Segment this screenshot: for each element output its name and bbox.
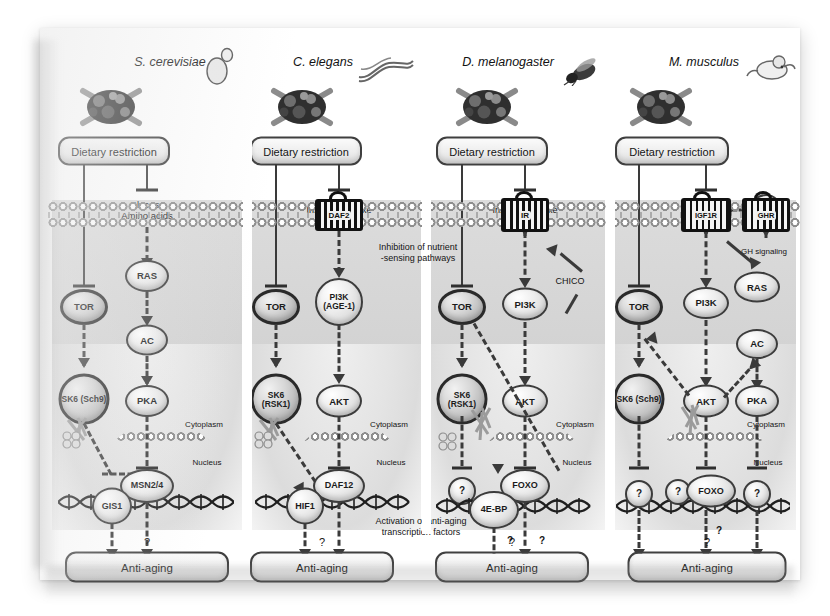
daf2-to-pi3k-dash [338, 231, 341, 273]
nuclear-pore-icon-left [437, 429, 463, 455]
ir-to-pi3k-dash [524, 232, 527, 284]
node-tor[interactable]: TOR [60, 289, 108, 325]
anti-aging-box-3[interactable]: Anti-aging [435, 552, 589, 583]
sk6-to-unknown-dash [461, 416, 464, 466]
nuclear-pore-icon [676, 403, 708, 449]
receptor-ir[interactable]: IR [501, 198, 549, 232]
node-unknown-3[interactable]: ? [743, 480, 771, 508]
dietary-restriction-box[interactable]: Dietary restriction [58, 137, 170, 166]
food-plate-icon [625, 81, 699, 131]
node-pi3k[interactable]: PI3K [683, 287, 729, 319]
dr-to-ligand-line [146, 164, 148, 190]
dietary-restriction-box[interactable]: Dietary restriction [615, 137, 729, 166]
inhibition-bar-unknown [452, 467, 472, 470]
cytoplasm-label: Cytoplasm [556, 420, 594, 430]
dr-to-ligand-line [338, 164, 340, 190]
inhibition-bar-tor [265, 285, 287, 288]
dietary-restriction-box[interactable]: Dietary restriction [250, 137, 362, 166]
cytoplasm-label: Cytoplasm [370, 420, 408, 430]
food-plate-icon [75, 81, 149, 131]
adaptor-chico-label: CHICO [556, 276, 585, 287]
tor-to-sk6-arrow [456, 358, 468, 368]
node-ras[interactable]: RAS [734, 272, 780, 303]
outcome-question-4: ? [704, 536, 710, 549]
daf2-to-pi3k-arrow [333, 268, 345, 278]
node-tor[interactable]: TOR [252, 289, 300, 325]
panel-s-cerevisiae: S. cerevisiae Dietary restriction Glucos… [52, 44, 242, 534]
inhibition-bar-tor [73, 285, 95, 288]
nucleus-label: Nucleus [377, 458, 406, 468]
mouse-icon [746, 53, 796, 85]
panel-separator-3 [606, 44, 615, 534]
figure-canvas: S. cerevisiae Dietary restriction Glucos… [0, 0, 830, 616]
inhibition-note: Inhibition of nutrient -sensing pathways [379, 242, 458, 264]
node-gis1[interactable]: GIS1 [92, 488, 132, 525]
node-tor[interactable]: TOR [615, 289, 663, 325]
daf12-output-dash [338, 503, 341, 555]
gh-signaling-label: GH signaling [741, 247, 787, 257]
pka-to-msn-dash [146, 416, 149, 466]
node-akt[interactable]: AKT [316, 385, 362, 418]
node-ac[interactable]: AC [126, 325, 168, 356]
species-label: C. elegans [293, 55, 353, 69]
activation-note: Activation of anti-aging transcription f… [375, 516, 466, 538]
node-hif1[interactable]: HIF1 [286, 488, 324, 525]
igf1r-to-pi3k-dash [705, 232, 708, 284]
tor-to-sk6-arrow [633, 358, 645, 368]
ir-to-pi3k-arrow [519, 278, 531, 288]
fruit-fly-icon [562, 54, 602, 86]
anti-aging-box-2[interactable]: Anti-aging [250, 552, 394, 583]
receptor-daf2[interactable]: DAF2 [315, 199, 363, 231]
plasma-membrane [48, 200, 246, 230]
panel-d-melanogaster: D. melanogaster Dietary restriction Insu… [430, 44, 605, 534]
anti-aging-box-1[interactable]: Anti-aging [65, 552, 229, 583]
node-foxo[interactable]: FOXO [686, 475, 736, 508]
outcome-question-1: ? [144, 536, 150, 549]
cytoplasm-label: Cytoplasm [747, 420, 785, 430]
pi3k-to-akt-dash [338, 324, 341, 380]
ligand-to-ras-dash [146, 227, 149, 261]
node-tor[interactable]: TOR [438, 289, 486, 325]
node-ras[interactable]: RAS [125, 260, 169, 292]
pi3k-to-akt-dash [524, 322, 527, 382]
sk6-to-unknown-dash [638, 416, 641, 466]
branch-question-1: ? [716, 525, 722, 537]
inhibition-bar-unknown-1 [629, 467, 649, 470]
inhibition-bar-tor [628, 285, 650, 288]
nucleus-label: Nucleus [563, 458, 592, 468]
dr-to-igf1-line [705, 164, 707, 190]
panel-m-musculus: M. musculus Dietary restriction IGF1 GH1 [614, 44, 796, 534]
pi3k-to-akt-dash [705, 320, 708, 384]
food-plate-icon [451, 81, 525, 131]
tor-to-sk6-arrow [78, 358, 90, 368]
akt-to-foxo-dash [705, 416, 708, 466]
nucleus-label: Nucleus [193, 458, 222, 468]
nematode-worm-icon [357, 57, 415, 83]
food-plate-icon [266, 81, 340, 131]
nuclear-pore-icon [464, 406, 500, 454]
cytoplasm-label: Cytoplasm [185, 420, 223, 430]
node-pi3k[interactable]: PI3K [502, 288, 548, 321]
panel-separator-2 [422, 44, 431, 534]
akt-to-foxo-dash [524, 416, 527, 466]
dietary-restriction-box[interactable]: Dietary restriction [436, 137, 548, 166]
outcome-question-2: ? [319, 536, 325, 549]
anti-aging-box-4[interactable]: Anti-aging [628, 552, 787, 583]
node-pka[interactable]: PKA [125, 385, 169, 417]
node-ac[interactable]: AC [736, 329, 778, 359]
foxo-output-dash [524, 503, 527, 555]
pka-to-unknown-dash [756, 416, 759, 466]
node-pi3k[interactable]: PI3K (AGE-1) [315, 278, 363, 326]
node-pka[interactable]: PKA [735, 385, 779, 417]
species-label: S. cerevisiae [134, 55, 206, 69]
pi3k-to-akt-arrow [333, 374, 345, 384]
inhibition-bar-unknown-3 [747, 467, 767, 470]
receptor-ghr[interactable]: GHR [742, 198, 790, 232]
species-label: D. melanogaster [462, 55, 554, 69]
receptor-igf1r[interactable]: IGF1R [681, 198, 731, 232]
node-unknown-1[interactable]: ? [625, 480, 653, 508]
inhibition-bar-ligand [136, 189, 158, 192]
tor-to-sk6-arrow [270, 358, 282, 368]
node-4ebp[interactable]: 4E-BP [469, 491, 519, 529]
dr-to-ligand-line [524, 164, 526, 190]
